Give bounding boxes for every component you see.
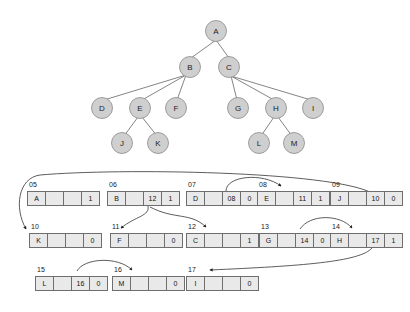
tree-node-label: I — [312, 104, 314, 113]
record-cell-flag[interactable]: 0 — [240, 276, 259, 291]
tree-node-label: F — [174, 104, 179, 113]
pointer-curve-13-to-14 — [300, 218, 352, 229]
record-cell-link1[interactable] — [348, 233, 367, 248]
record-cell-flag[interactable]: 1 — [240, 233, 259, 248]
tree-node-label: J — [120, 139, 124, 148]
record-cell-link1[interactable] — [204, 276, 223, 291]
tree-node-label: E — [137, 104, 142, 113]
record-cell-link1[interactable] — [275, 191, 294, 206]
tree-node-label: K — [155, 139, 161, 148]
record-cell-link1[interactable] — [53, 276, 72, 291]
pointer-curve-06-to-11 — [121, 206, 148, 228]
record-cell-link2[interactable] — [146, 233, 165, 248]
record-address: 07 — [188, 181, 196, 188]
record-cell-flag[interactable]: 0 — [166, 276, 185, 291]
edge-C-I — [231, 76, 311, 100]
tree-node-label: B — [187, 63, 192, 72]
record-cell-link2[interactable] — [222, 233, 241, 248]
memory-record-08[interactable]: E 11 1 — [257, 191, 330, 206]
record-cell-link2[interactable]: 12 — [143, 191, 162, 206]
memory-record-05[interactable]: A 1 — [27, 191, 100, 206]
record-cell-flag[interactable]: 1 — [81, 191, 100, 206]
memory-record-12[interactable]: C 1 — [186, 233, 259, 248]
record-address: 11 — [112, 223, 120, 230]
tree-node-label: C — [226, 63, 232, 72]
memory-record-06[interactable]: B 12 1 — [107, 191, 180, 206]
record-address: 08 — [259, 181, 267, 188]
tree-node-I: I — [303, 98, 324, 119]
record-cell-data[interactable]: M — [112, 276, 131, 291]
memory-record-14[interactable]: H 17 1 — [330, 233, 403, 248]
memory-record-09[interactable]: J 10 0 — [330, 191, 403, 206]
record-cell-link2[interactable] — [148, 276, 167, 291]
record-cell-data[interactable]: E — [257, 191, 276, 206]
record-cell-data[interactable]: G — [259, 233, 278, 248]
record-cell-flag[interactable]: 0 — [384, 191, 403, 206]
pointer-curve-06-to-12 — [150, 207, 206, 227]
tree-node-L: L — [249, 133, 270, 154]
record-cell-flag[interactable]: 0 — [164, 233, 183, 248]
record-cell-flag[interactable]: 1 — [311, 191, 330, 206]
memory-record-15[interactable]: L 16 0 — [35, 276, 108, 291]
record-cell-link1[interactable] — [128, 233, 147, 248]
record-cell-link1[interactable] — [125, 191, 144, 206]
record-cell-data[interactable]: F — [110, 233, 129, 248]
tree-node-label: G — [235, 104, 241, 113]
record-address: 13 — [261, 223, 269, 230]
record-cell-data[interactable]: B — [107, 191, 126, 206]
tree-edges — [104, 40, 311, 136]
tree-node-M: M — [284, 133, 305, 154]
record-cell-link2[interactable]: 16 — [71, 276, 90, 291]
record-cell-link1[interactable] — [277, 233, 296, 248]
memory-record-11[interactable]: F 0 — [110, 233, 183, 248]
record-cell-link1[interactable] — [204, 233, 223, 248]
record-cell-link1[interactable] — [45, 191, 64, 206]
record-cell-flag[interactable]: 1 — [384, 233, 403, 248]
record-cell-flag[interactable]: 0 — [83, 233, 102, 248]
record-address: 06 — [109, 181, 117, 188]
record-cell-data[interactable]: I — [186, 276, 205, 291]
record-address: 10 — [31, 223, 39, 230]
record-cell-flag[interactable]: 1 — [161, 191, 180, 206]
record-cell-link2[interactable]: 11 — [293, 191, 312, 206]
record-cell-link2[interactable]: 10 — [366, 191, 385, 206]
record-cell-link2[interactable]: 14 — [295, 233, 314, 248]
tree-memory-diagram: A B C D E F G — [0, 0, 410, 312]
record-cell-data[interactable]: A — [27, 191, 46, 206]
record-address: 14 — [332, 223, 340, 230]
record-cell-data[interactable]: K — [29, 233, 48, 248]
record-cell-data[interactable]: H — [330, 233, 349, 248]
record-cell-link1[interactable] — [348, 191, 367, 206]
record-cell-link2[interactable] — [222, 276, 241, 291]
record-cell-data[interactable]: C — [186, 233, 205, 248]
memory-record-16[interactable]: M 0 — [112, 276, 185, 291]
record-cell-link1[interactable] — [130, 276, 149, 291]
tree-node-E: E — [130, 98, 151, 119]
tree-node-F: F — [166, 98, 187, 119]
tree-node-G: G — [228, 98, 249, 119]
record-address: 09 — [332, 181, 340, 188]
record-cell-link2[interactable] — [65, 233, 84, 248]
memory-record-10[interactable]: K 0 — [29, 233, 102, 248]
record-cell-link1[interactable] — [47, 233, 66, 248]
record-cell-data[interactable]: L — [35, 276, 54, 291]
edge-C-H — [231, 76, 274, 100]
record-cell-data[interactable]: J — [330, 191, 349, 206]
tree-node-K: K — [148, 133, 169, 154]
tree-node-C: C — [219, 57, 240, 78]
record-cell-link2[interactable] — [63, 191, 82, 206]
memory-record-17[interactable]: I 0 — [186, 276, 259, 291]
tree-nodes: A B C D E F G — [92, 21, 324, 154]
memory-record-13[interactable]: G 14 0 — [259, 233, 332, 248]
memory-record-07[interactable]: D 08 0 — [186, 191, 259, 206]
tree-node-B: B — [180, 57, 201, 78]
tree-node-A: A — [206, 21, 227, 42]
record-cell-link1[interactable] — [204, 191, 223, 206]
record-cell-link2[interactable]: 17 — [366, 233, 385, 248]
record-cell-data[interactable]: D — [186, 191, 205, 206]
edge-B-D — [104, 75, 186, 100]
record-address: 15 — [37, 266, 45, 273]
record-cell-link2[interactable]: 08 — [222, 191, 241, 206]
record-cell-flag[interactable]: 0 — [89, 276, 108, 291]
tree-node-label: H — [273, 104, 279, 113]
